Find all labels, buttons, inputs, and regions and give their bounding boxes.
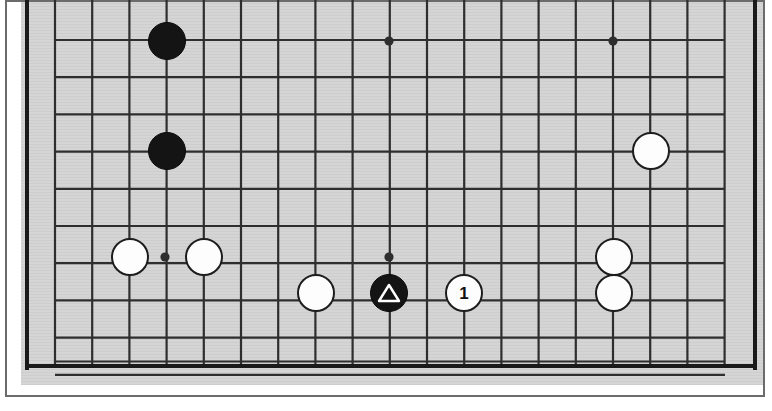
triangle-marker-shape	[379, 285, 399, 301]
stone-white-white-left-star-a[interactable]	[111, 238, 149, 276]
star-point-lower-left	[160, 252, 169, 261]
stone-black-triangle-black-marked[interactable]	[370, 274, 408, 312]
stone-black-black-upper-left-2[interactable]	[148, 132, 186, 170]
star-point-top-right-area	[608, 36, 617, 45]
go-board-grid	[0, 0, 772, 411]
stone-white-white-right-low[interactable]	[595, 274, 633, 312]
go-diagram-page: 1	[0, 0, 772, 411]
stone-white-white-right-upper[interactable]	[632, 132, 670, 170]
stone-black-black-upper-left-1[interactable]	[148, 22, 186, 60]
board-edge-lines	[25, 0, 757, 370]
stone-white-white-left-star-b[interactable]	[185, 238, 223, 276]
star-point-lower-center	[384, 252, 393, 261]
stone-white-label-1-white-move-1[interactable]: 1	[445, 274, 483, 312]
stone-white-white-center-left[interactable]	[297, 274, 335, 312]
star-point-top-left-area	[384, 36, 393, 45]
stone-move-number: 1	[459, 285, 468, 302]
triangle-marker-icon	[377, 282, 401, 304]
stone-white-white-right-mid[interactable]	[595, 238, 633, 276]
